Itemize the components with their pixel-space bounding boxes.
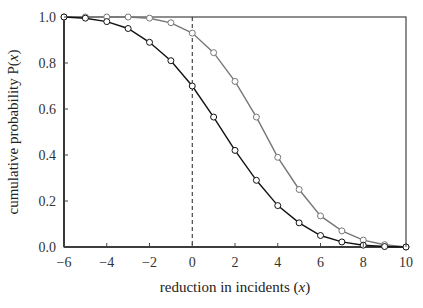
y-axis-title: cumulative probability P(x) [5,50,22,215]
x-tick-label: 6 [317,255,324,270]
data-point-marker [253,177,259,183]
plot-frame [64,17,406,247]
y-tick-label: 0.2 [39,194,57,209]
data-point-marker [318,213,324,219]
y-tick-label: 0.4 [39,148,57,163]
data-point-marker [296,187,302,193]
data-point-marker [339,239,345,245]
plot-border [64,17,406,247]
series-layer [61,14,409,250]
data-point-marker [189,83,195,89]
data-point-marker [125,26,131,32]
data-point-marker [189,30,195,36]
data-point-marker [232,147,238,153]
data-point-marker [168,58,174,64]
data-point-marker [318,233,324,239]
x-tick-label: −2 [142,255,157,270]
data-point-marker [125,14,131,20]
data-point-marker [82,15,88,21]
cumulative-probability-chart: −6−4−20246810 0.00.20.40.60.81.0 reducti… [0,0,423,308]
y-tick-label: 0.6 [39,102,57,117]
data-point-marker [211,114,217,120]
data-point-marker [275,203,281,209]
data-point-marker [275,154,281,160]
y-tick-label: 0.0 [39,240,57,255]
data-point-marker [339,228,345,234]
data-point-marker [232,78,238,84]
x-tick-label: 0 [189,255,196,270]
data-point-marker [168,20,174,26]
x-axis-title: reduction in incidents (x) [160,279,310,296]
data-point-marker [147,39,153,45]
data-point-marker [253,114,259,120]
x-tick-label: −4 [99,255,114,270]
series-line [64,17,406,247]
data-point-marker [147,15,153,21]
data-point-marker [382,244,388,250]
x-tick-label: 10 [399,255,413,270]
data-point-marker [211,50,217,56]
series-line [64,17,406,247]
series-gray-curve [61,14,409,250]
x-tick-label: 4 [274,255,281,270]
y-tick-label: 1.0 [39,10,57,25]
x-tick-label: 2 [232,255,239,270]
x-tick-label: −6 [57,255,72,270]
x-tick-label: 8 [360,255,367,270]
data-point-marker [104,19,110,25]
data-point-marker [296,220,302,226]
y-tick-label: 0.8 [39,56,57,71]
series-black-curve [61,14,409,250]
